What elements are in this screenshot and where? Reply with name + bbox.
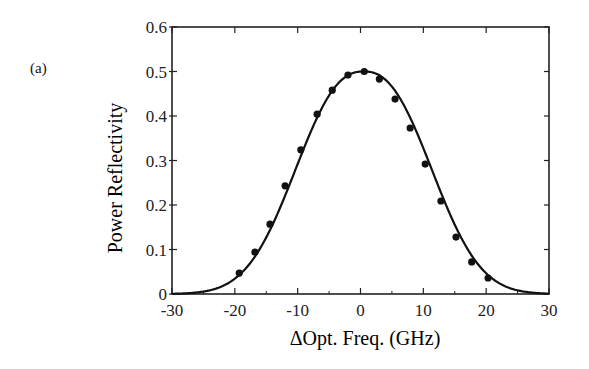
axis-ticks [169,27,549,294]
x-tick-label: 20 [478,301,495,320]
y-tick-label: 0.4 [146,107,168,126]
data-point [376,75,383,82]
data-point [361,68,368,75]
data-point [468,258,475,265]
plot-border [172,27,549,294]
x-axis-label: ΔOpt. Freq. (GHz) [290,327,441,350]
y-tick-label: 0.6 [146,18,167,37]
y-tick-label: 0.1 [146,241,167,260]
data-point [391,95,398,102]
x-tick-label: -20 [223,301,246,320]
x-tick-label: 10 [415,301,432,320]
y-axis-label: Power Reflectivity [104,103,127,254]
x-tick-label: 30 [541,301,558,320]
y-tick-label: 0.3 [146,152,167,171]
x-tick-label: -10 [286,301,309,320]
data-point [407,124,414,131]
data-point [329,87,336,94]
data-point [422,160,429,167]
reflectivity-chart: -30-20-10010203000.10.20.30.40.50.6 ΔOpt… [0,0,589,369]
tick-labels: -30-20-10010203000.10.20.30.40.50.6 [146,18,558,320]
data-point [452,233,459,240]
data-point [236,269,243,276]
y-tick-label: 0.2 [146,196,167,215]
data-point [344,71,351,78]
data-point [297,146,304,153]
theory-curve [172,72,549,294]
y-tick-label: 0 [159,285,168,304]
x-tick-label: 0 [356,301,365,320]
data-point [282,182,289,189]
data-point [266,221,273,228]
data-point [314,111,321,118]
data-point [484,274,491,281]
plot-frame [172,27,549,294]
data-point [437,197,444,204]
y-tick-label: 0.5 [146,63,167,82]
measured-points [236,68,492,282]
data-point [251,249,258,256]
